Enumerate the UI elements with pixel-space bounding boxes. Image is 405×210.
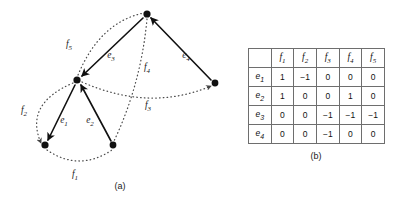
dotted-edge-f4 <box>114 19 147 141</box>
dotted-edge-f5 <box>78 13 144 75</box>
vertex-left <box>73 76 80 83</box>
edge-label-f1: f1 <box>72 170 78 182</box>
table-row: e4 0 0 −1 0 0 <box>249 125 385 144</box>
vertex-bottom-right <box>110 142 117 149</box>
matrix-header-row: f1 f2 f3 f4 f5 <box>249 49 385 68</box>
edge-label-f5: f5 <box>66 40 72 52</box>
matrix-cell-e3-f3: −1 <box>316 106 339 125</box>
matrix-cell-e2-f1: 1 <box>271 87 294 106</box>
matrix-col-header-f2: f2 <box>294 49 317 68</box>
vertex-right <box>212 80 219 87</box>
matrix-cell-e2-f3: 0 <box>316 87 339 106</box>
table-row: e1 1 −1 0 0 0 <box>249 68 385 87</box>
edge-label-e4: e4 <box>182 51 190 63</box>
matrix-col-header-f5: f5 <box>362 49 385 68</box>
matrix-cell-e3-f4: −1 <box>339 106 362 125</box>
vertex-bottom-left <box>41 141 48 148</box>
matrix-cell-e3-f5: −1 <box>362 106 385 125</box>
figure-root: e1 e2 e3 e4 f1 f2 f3 f4 f5 (a) f1 f2 f3 … <box>0 0 405 210</box>
matrix-cell-e3-f1: 0 <box>271 106 294 125</box>
matrix-row-header-e2: e2 <box>249 87 272 106</box>
edge-label-e2: e2 <box>86 116 94 128</box>
matrix-cell-e4-f2: 0 <box>294 125 317 144</box>
edge-label-f3: f3 <box>145 101 151 113</box>
panel-b-caption: (b) <box>311 151 322 161</box>
matrix-cell-e1-f5: 0 <box>362 68 385 87</box>
table-row: e3 0 0 −1 −1 −1 <box>249 106 385 125</box>
matrix-cell-e2-f4: 1 <box>339 87 362 106</box>
matrix-col-header-f4: f4 <box>339 49 362 68</box>
matrix-cell-e2-f2: 0 <box>294 87 317 106</box>
matrix-cell-e4-f4: 0 <box>339 125 362 144</box>
solid-edge-e2 <box>81 85 111 141</box>
matrix-cell-e4-f1: 0 <box>271 125 294 144</box>
edge-label-f4: f4 <box>144 63 150 75</box>
edge-label-f2: f2 <box>21 106 27 118</box>
table-row: e2 1 0 0 1 0 <box>249 87 385 106</box>
matrix-cell-e1-f2: −1 <box>294 68 317 87</box>
dotted-edge-f3 <box>82 82 211 98</box>
matrix-row-header-e3: e3 <box>249 106 272 125</box>
matrix-cell-e2-f5: 0 <box>362 87 385 106</box>
edge-label-e3: e3 <box>107 51 115 63</box>
solid-edge-group <box>48 18 211 141</box>
incidence-matrix-table: f1 f2 f3 f4 f5 e1 1 −1 0 0 0 e2 <box>248 48 385 144</box>
matrix-cell-e3-f2: 0 <box>294 106 317 125</box>
solid-edge-e3 <box>82 18 143 76</box>
matrix-cell-e1-f3: 0 <box>316 68 339 87</box>
matrix-cell-e1-f4: 0 <box>339 68 362 87</box>
matrix-corner-cell <box>249 49 272 68</box>
dotted-edge-f1 <box>47 150 112 161</box>
matrix-cell-e1-f1: 1 <box>271 68 294 87</box>
incidence-matrix-panel: f1 f2 f3 f4 f5 e1 1 −1 0 0 0 e2 <box>248 48 385 144</box>
edge-label-e1: e1 <box>60 116 68 128</box>
panel-a-caption: (a) <box>115 181 126 191</box>
matrix-cell-e4-f5: 0 <box>362 125 385 144</box>
dotted-edge-f2 <box>37 83 73 143</box>
matrix-col-header-f1: f1 <box>271 49 294 68</box>
matrix-col-header-f3: f3 <box>316 49 339 68</box>
graph-diagram-panel: e1 e2 e3 e4 f1 f2 f3 f4 f5 (a) <box>0 0 235 210</box>
vertex-top <box>143 10 150 17</box>
graph-drawing <box>0 0 235 210</box>
solid-edge-e1 <box>48 85 75 140</box>
solid-edge-e4 <box>151 18 211 80</box>
matrix-row-header-e1: e1 <box>249 68 272 87</box>
matrix-cell-e4-f3: −1 <box>316 125 339 144</box>
matrix-row-header-e4: e4 <box>249 125 272 144</box>
